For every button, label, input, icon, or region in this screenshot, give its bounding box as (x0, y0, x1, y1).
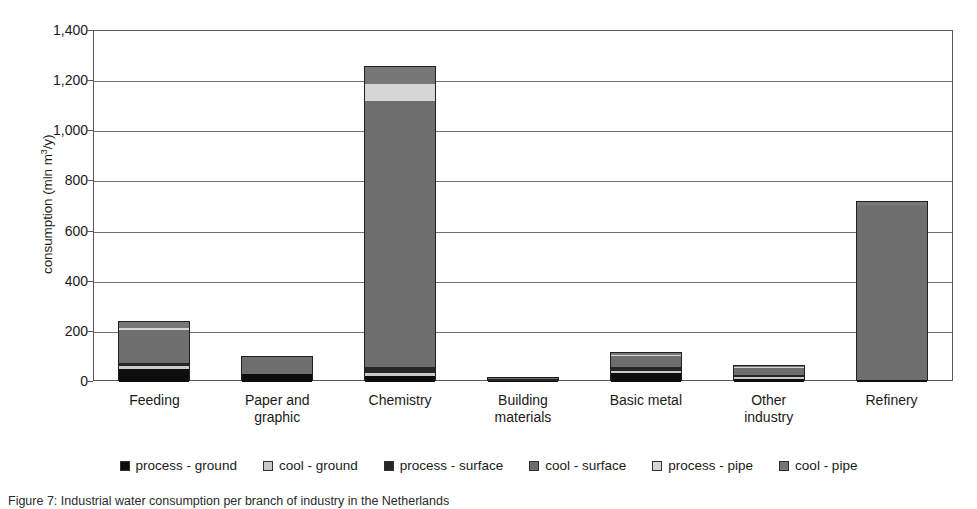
bar-segment[interactable] (365, 376, 435, 382)
bar-segment[interactable] (365, 101, 435, 368)
x-tick-label: Refinery (830, 392, 953, 409)
bar-group[interactable] (241, 30, 313, 381)
bar-group[interactable] (733, 30, 805, 381)
bar-group[interactable] (118, 30, 190, 381)
x-tick-label-line: Paper and (216, 392, 339, 409)
legend-swatch-icon (120, 461, 130, 471)
y-tick-mark (86, 231, 93, 232)
bar-stack[interactable] (733, 365, 805, 381)
y-tick-mark (86, 180, 93, 181)
legend-label: cool - surface (545, 459, 626, 473)
legend-label: cool - pipe (795, 459, 857, 473)
bar-segment[interactable] (242, 374, 312, 382)
bar-segment[interactable] (611, 373, 681, 382)
bar-segment[interactable] (365, 67, 435, 83)
legend-item[interactable]: cool - ground (263, 459, 358, 473)
x-tick-label: Paper andgraphic (216, 392, 339, 426)
legend-item[interactable]: process - pipe (652, 459, 753, 473)
bar-group[interactable] (856, 30, 928, 381)
bar-group[interactable] (364, 30, 436, 381)
bar-stack[interactable] (118, 321, 190, 381)
bar-stack[interactable] (364, 66, 436, 381)
y-axis-title-prefix: consumption (mln m (40, 154, 55, 274)
y-tick-label: 600 (8, 224, 88, 238)
figure-caption: Figure 7: Industrial water consumption p… (8, 494, 968, 509)
bars-layer (93, 30, 953, 381)
bar-segment[interactable] (734, 368, 804, 375)
x-tick-label-line: graphic (216, 409, 339, 426)
x-tick-label-line: Other (707, 392, 830, 409)
x-tick-label-line: Refinery (830, 392, 953, 409)
bar-segment[interactable] (734, 379, 804, 382)
bar-segment[interactable] (119, 330, 189, 363)
bar-group[interactable] (487, 30, 559, 381)
bar-segment[interactable] (857, 380, 927, 382)
chart-legend: process - groundcool - groundprocess - s… (0, 459, 977, 473)
bar-stack[interactable] (856, 201, 928, 381)
x-tick-label-line: Feeding (93, 392, 216, 409)
x-tick-label-line: Basic metal (584, 392, 707, 409)
x-tick-label: Feeding (93, 392, 216, 409)
chart-container: consumption (mln m3/y) 02004006008001,00… (0, 0, 977, 509)
y-tick-label: 0 (8, 374, 88, 388)
x-tick-label: Basic metal (584, 392, 707, 409)
legend-item[interactable]: process - ground (120, 459, 237, 473)
y-tick-label: 800 (8, 173, 88, 187)
legend-swatch-icon (779, 461, 789, 471)
y-tick-label: 1,400 (8, 23, 88, 37)
legend-swatch-icon (263, 461, 273, 471)
bar-segment[interactable] (365, 84, 435, 101)
legend-label: cool - ground (279, 459, 358, 473)
y-axis-title: consumption (mln m3/y) (39, 39, 56, 369)
legend-label: process - pipe (668, 459, 753, 473)
y-tick-label: 1,000 (8, 123, 88, 137)
legend-swatch-icon (529, 461, 539, 471)
y-tick-label: 1,200 (8, 73, 88, 87)
legend-label: process - ground (136, 459, 237, 473)
legend-item[interactable]: process - surface (384, 459, 504, 473)
y-tick-mark (86, 80, 93, 81)
y-axis-title-exponent: 3 (39, 149, 49, 154)
bar-segment[interactable] (611, 356, 681, 367)
bar-segment[interactable] (242, 357, 312, 375)
legend-swatch-icon (652, 461, 662, 471)
y-tick-mark (86, 281, 93, 282)
y-tick-mark (86, 381, 93, 382)
bar-segment[interactable] (488, 381, 558, 383)
bar-segment[interactable] (857, 206, 927, 381)
y-tick-mark (86, 331, 93, 332)
y-tick-mark (86, 30, 93, 31)
legend-item[interactable]: cool - pipe (779, 459, 857, 473)
x-tick-label: Otherindustry (707, 392, 830, 426)
x-tick-label-line: materials (462, 409, 585, 426)
x-tick-label-line: Building (462, 392, 585, 409)
y-tick-label: 200 (8, 324, 88, 338)
bar-stack[interactable] (610, 352, 682, 381)
y-tick-mark (86, 130, 93, 131)
bar-group[interactable] (610, 30, 682, 381)
legend-swatch-icon (384, 461, 394, 471)
bar-segment[interactable] (119, 369, 189, 382)
x-tick-label: Chemistry (339, 392, 462, 409)
x-tick-label-line: industry (707, 409, 830, 426)
y-tick-label: 400 (8, 274, 88, 288)
bar-stack[interactable] (241, 356, 313, 381)
x-tick-label: Buildingmaterials (462, 392, 585, 426)
x-tick-label-line: Chemistry (339, 392, 462, 409)
legend-item[interactable]: cool - surface (529, 459, 626, 473)
legend-label: process - surface (400, 459, 504, 473)
bar-stack[interactable] (487, 377, 559, 382)
